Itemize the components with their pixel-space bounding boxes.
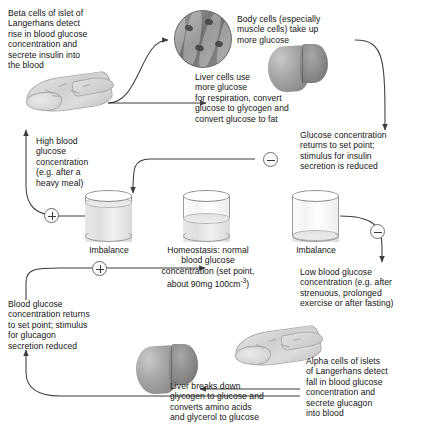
homeostasis-diagram: Beta cells of islet of Langerhans detect…	[0, 0, 441, 432]
homeostasis-close-paren: )	[246, 279, 249, 289]
homeostasis-gauge	[183, 190, 230, 242]
plus-sign-glucagon-feedback	[92, 261, 107, 276]
insulin-reduced-text: Glucose concentration returns to set poi…	[300, 130, 432, 172]
imbalance-label-left: Imbalance	[73, 245, 145, 255]
homeostasis-text: Homeostasis: normal blood glucose concen…	[152, 245, 264, 276]
body-cells-text: Body cells (especially muscle cells) tak…	[237, 14, 365, 45]
glucagon-reduced-text: Blood glucose concentration returns to s…	[8, 299, 128, 351]
imbalance-label-right: Imbalance	[280, 245, 352, 255]
high-glucose-text: High blood glucose concentration (e.g. a…	[36, 136, 128, 188]
plus-sign-high-glucose	[44, 208, 59, 223]
homeostasis-value-text: about 90mg 100cm	[167, 279, 241, 289]
muscle-cells-micrograph	[174, 10, 232, 68]
low-glucose-gauge	[292, 190, 339, 242]
homeostasis-value: about 90mg 100cm-3)	[152, 276, 264, 289]
alpha-cells-text: Alpha cells of islets of Langerhans dete…	[306, 356, 436, 418]
beta-cells-text: Beta cells of islet of Langerhans detect…	[8, 8, 133, 70]
liver-breakdown-text: Liver breaks down glycogen to glucose an…	[170, 381, 306, 423]
high-glucose-gauge	[85, 190, 132, 242]
liver-uptake-text: Liver cells use more glucose for respira…	[195, 72, 335, 124]
minus-sign-low-glucose	[370, 224, 385, 239]
low-glucose-text: Low blood glucose concentration (e.g. af…	[300, 267, 436, 309]
minus-sign-insulin-feedback	[263, 152, 278, 167]
pancreas-illustration-top	[26, 76, 112, 110]
